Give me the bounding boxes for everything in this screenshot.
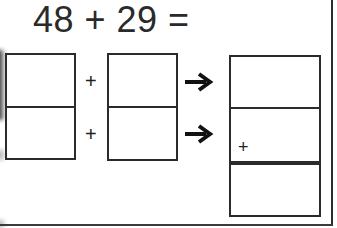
result-sum-line: [231, 161, 319, 165]
arrow-right-icon: [184, 72, 214, 92]
result-box-divider: [231, 107, 319, 109]
result-box: +: [229, 55, 321, 217]
plus-sign-row-2: +: [85, 124, 97, 144]
middle-input-box: [107, 53, 178, 161]
middle-box-divider: [109, 106, 176, 108]
equation-title: 48 + 29 =: [33, 0, 190, 40]
arrow-right-icon: [184, 124, 214, 144]
page-border-right: [331, 0, 333, 226]
page-border-bottom: [0, 224, 333, 226]
left-box-divider: [7, 106, 74, 108]
page-edge-shadow: [0, 150, 4, 160]
left-input-box: [5, 53, 76, 160]
plus-sign-row-1: +: [85, 71, 97, 91]
result-plus-sign: +: [238, 137, 249, 157]
